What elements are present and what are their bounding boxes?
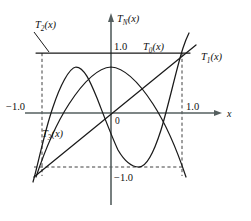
tick-label-x-right: 1.0: [186, 101, 199, 112]
curve-label-t2: T2(x): [35, 19, 57, 33]
svg-text:TN(x): TN(x): [117, 13, 140, 27]
label-leaders: [34, 32, 49, 52]
x-axis-arrowhead: [214, 110, 222, 116]
curve-label-t3: T3(x): [42, 128, 64, 142]
curve-label-t3-arg: (x): [51, 128, 63, 140]
curve-label-t0-arg: (x): [152, 41, 164, 53]
svg-text:T3(x): T3(x): [42, 128, 64, 142]
curve-label-t2-arg: (x): [44, 19, 56, 31]
y-axis-arrowhead: [108, 13, 114, 22]
svg-text:T2(x): T2(x): [35, 19, 57, 33]
leader-t2: [34, 32, 49, 52]
curve-label-t1: T1(x): [201, 51, 223, 65]
tick-label-y-bottom: −1.0: [114, 172, 133, 183]
svg-text:T1(x): T1(x): [201, 51, 223, 65]
y-axis-title: TN(x): [117, 13, 140, 27]
chebyshev-figure: 1.0 −1.0 −1.0 1.0 0 TN(x) x T0(x) T1(x) …: [0, 0, 251, 221]
curve-label-t1-arg: (x): [210, 51, 222, 63]
curve-t1: [34, 45, 196, 177]
y-axis-title-arg: (x): [128, 13, 140, 25]
tick-label-y-top: 1.0: [114, 41, 127, 52]
origin-label: 0: [115, 116, 120, 126]
plot-canvas: 1.0 −1.0 −1.0 1.0 0 TN(x) x T0(x) T1(x) …: [0, 0, 251, 221]
x-axis-title: x: [226, 108, 232, 119]
tick-label-x-left: −1.0: [6, 101, 25, 112]
